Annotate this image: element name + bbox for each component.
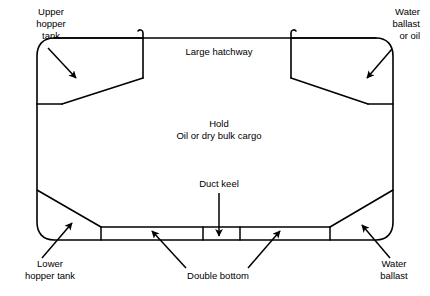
label-double-bottom: Double bottom (156, 270, 280, 282)
label-large-hatchway: Large hatchway (158, 46, 280, 58)
upper-hopper-tank-port-slope (62, 78, 143, 104)
ship-cross-section-drawing (0, 0, 430, 296)
label-hold-contents: Oil or dry bulk cargo (148, 130, 290, 142)
leader-double-bottom-right (248, 231, 280, 268)
label-upper-hopper-tank: Upper hopper tank (18, 6, 84, 42)
label-duct-keel: Duct keel (178, 178, 260, 190)
lower-hopper-tank-starboard-slope (330, 190, 393, 227)
hatch-coaming-port (138, 30, 143, 78)
label-water-ballast: Water ballast (364, 258, 424, 282)
leader-water-ballast (362, 225, 390, 258)
hatch-coaming-starboard (291, 30, 296, 78)
label-water-ballast-or-oil: Water ballast or oil (346, 6, 420, 42)
label-hold: Hold (158, 118, 280, 130)
leader-upper-hopper-tank (48, 48, 76, 78)
leader-double-bottom-left (152, 231, 186, 268)
leader-water-ballast-or-oil (367, 49, 392, 78)
diagram-page: Upper hopper tank Water ballast or oil L… (0, 0, 430, 296)
upper-hopper-tank-starboard-slope (291, 78, 368, 104)
lower-hopper-tank-port-slope (37, 190, 101, 227)
label-lower-hopper-tank: Lower hopper tank (8, 258, 92, 282)
